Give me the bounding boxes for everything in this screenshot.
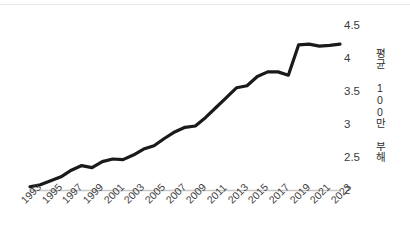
chart-container: 4.5 4 3.5 3 2.5 2 평균 100만 부해 19931995199… xyxy=(0,0,410,246)
data-series-line xyxy=(30,44,340,187)
y-axis-title: 평균 100만 부해 xyxy=(369,48,385,163)
y-tick-label: 4.5 xyxy=(344,20,378,32)
